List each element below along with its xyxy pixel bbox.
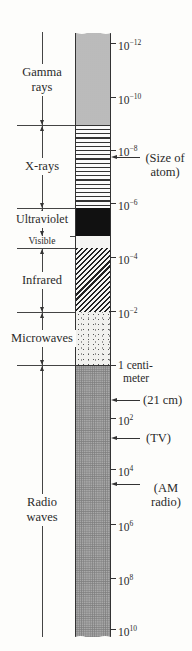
tick-mark — [111, 469, 116, 470]
band-visible — [75, 236, 111, 248]
label-line: Microwaves — [8, 331, 76, 346]
label-gamma-rays: Gamma rays — [12, 64, 72, 96]
tick-mark — [111, 629, 116, 630]
tick-label-1e6: 106 — [118, 518, 133, 533]
label-line: (AM — [143, 481, 189, 495]
label-microwaves: Microwaves — [8, 330, 76, 347]
label-line: Radio — [12, 495, 72, 510]
arrow-up-icon — [40, 249, 44, 254]
band-microwaves — [75, 312, 111, 365]
tick-mark — [111, 311, 116, 312]
label-line: waves — [12, 510, 72, 525]
label-line: meter — [118, 372, 153, 385]
label-x-rays: X-rays — [12, 158, 72, 175]
divider-ir-micro — [17, 312, 75, 313]
divider-micro-radio — [17, 365, 75, 366]
tick-label-1e-10: 10−10 — [118, 91, 141, 106]
tick-mark — [111, 203, 116, 204]
tick-label-1-centimeter: 1 centi- meter — [118, 359, 153, 385]
divider-visible-ir — [17, 248, 75, 249]
tick-mark — [111, 43, 116, 44]
annotation-tv: (TV) — [146, 431, 171, 445]
spectrum-column — [75, 33, 111, 637]
tick-mark — [111, 97, 116, 98]
label-line: (TV) — [146, 431, 171, 445]
bottom-break-wave — [75, 633, 111, 641]
label-line: Ultraviolet — [10, 212, 74, 227]
annotation-arrow-line — [115, 438, 140, 439]
tick-mark — [111, 150, 116, 151]
tick-mark — [111, 578, 116, 579]
label-radio-waves: Radio waves — [12, 494, 72, 526]
annotation-arrow-line — [115, 400, 140, 401]
tick-mark — [111, 257, 116, 258]
annotation-arrow-line — [115, 157, 140, 158]
label-line: atom) — [140, 165, 190, 179]
tick-label-1e-4: 10−4 — [118, 251, 137, 266]
divider-gamma-xray — [17, 125, 75, 126]
tick-label-1e-6: 10−6 — [118, 197, 137, 212]
label-visible: Visible — [14, 236, 70, 247]
label-line: 1 centi- — [118, 359, 153, 372]
label-infrared: Infrared — [12, 272, 72, 289]
band-gamma-rays — [75, 33, 111, 125]
tick-label-1e-8: 10−8 — [118, 143, 137, 158]
tick-label-1e-2: 10−2 — [118, 305, 137, 320]
tick-label-1e10: 1010 — [118, 623, 137, 638]
label-line: (21 cm) — [143, 393, 182, 407]
band-infrared — [75, 248, 111, 312]
tick-label-1e2: 102 — [118, 412, 133, 427]
label-line: X-rays — [12, 159, 72, 174]
tick-mark — [111, 418, 116, 419]
label-line: Infrared — [12, 273, 72, 288]
band-ultraviolet — [75, 208, 111, 236]
label-line: Gamma — [12, 65, 72, 80]
annotation-21-cm: (21 cm) — [143, 393, 182, 407]
arrow-up-icon — [40, 313, 44, 318]
tick-label-1e-12: 10−12 — [118, 37, 141, 52]
annotation-arrow-line — [115, 484, 140, 485]
tick-mark — [111, 365, 116, 366]
top-break-wave — [75, 29, 111, 37]
tick-label-1e4: 104 — [118, 463, 133, 478]
annotation-am-radio: (AM radio) — [143, 481, 189, 509]
label-line: (Size of — [140, 151, 190, 165]
divider-xray-uv — [17, 208, 75, 209]
arrow-up-icon — [40, 126, 44, 131]
label-line: rays — [12, 80, 72, 95]
arrow-up-icon — [40, 366, 44, 371]
label-line: Visible — [14, 236, 70, 247]
annotation-size-of-atom: (Size of atom) — [140, 151, 190, 179]
label-ultraviolet: Ultraviolet — [10, 211, 74, 228]
band-radio-waves — [75, 365, 111, 637]
tick-mark — [111, 524, 116, 525]
band-x-rays — [75, 125, 111, 208]
label-line: radio) — [143, 495, 189, 509]
tick-label-1e8: 108 — [118, 572, 133, 587]
